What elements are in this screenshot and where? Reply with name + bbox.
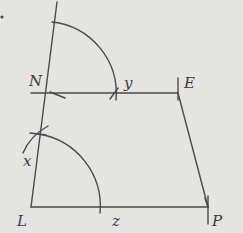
label-x: x	[23, 152, 32, 170]
cross-mark-x	[30, 133, 46, 135]
construction-diagram: N y E x L z P	[0, 0, 243, 233]
stray-dot	[0, 15, 3, 18]
line-EP	[178, 93, 208, 207]
label-L: L	[16, 212, 27, 230]
label-y: y	[123, 74, 133, 92]
label-P: P	[211, 212, 223, 230]
label-E: E	[183, 74, 195, 92]
label-z: z	[111, 212, 120, 230]
label-N: N	[28, 72, 43, 90]
arc-x	[23, 126, 48, 153]
arc-from-N	[52, 22, 116, 100]
line-LN-extended	[31, 2, 57, 207]
arc-from-L	[38, 134, 100, 213]
